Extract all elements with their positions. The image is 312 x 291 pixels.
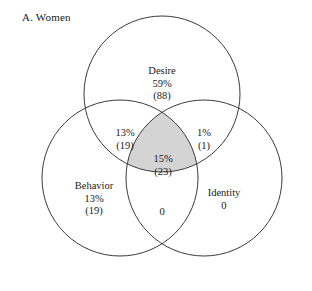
- label-behavior-identity: 0: [159, 206, 164, 219]
- label-desire-behavior-count: (19): [115, 139, 134, 152]
- label-all-three: 15% (23): [153, 153, 172, 178]
- label-behavior-percent: 13%: [75, 193, 114, 206]
- label-desire-name: Desire: [148, 65, 175, 78]
- label-behavior: Behavior 13% (19): [75, 180, 114, 218]
- label-identity-percent: 0: [208, 199, 241, 212]
- label-behavior-count: (19): [75, 205, 114, 218]
- label-behavior-name: Behavior: [75, 180, 114, 193]
- venn-circles-svg: [0, 0, 312, 291]
- label-desire-behavior: 13% (19): [115, 127, 134, 152]
- label-identity-name: Identity: [208, 187, 241, 200]
- label-desire-percent: 59%: [148, 78, 175, 91]
- venn-diagram-figure: A. Women Desire 59% (88): [0, 0, 312, 291]
- label-identity: Identity 0: [208, 187, 241, 212]
- label-desire-behavior-percent: 13%: [115, 127, 134, 140]
- label-desire: Desire 59% (88): [148, 65, 175, 103]
- label-desire-identity: 1% (1): [197, 127, 211, 152]
- label-desire-count: (88): [148, 90, 175, 103]
- label-all-three-percent: 15%: [153, 153, 172, 166]
- label-behavior-identity-percent: 0: [159, 206, 164, 219]
- label-all-three-count: (23): [153, 165, 172, 178]
- label-desire-identity-percent: 1%: [197, 127, 211, 140]
- label-desire-identity-count: (1): [197, 139, 211, 152]
